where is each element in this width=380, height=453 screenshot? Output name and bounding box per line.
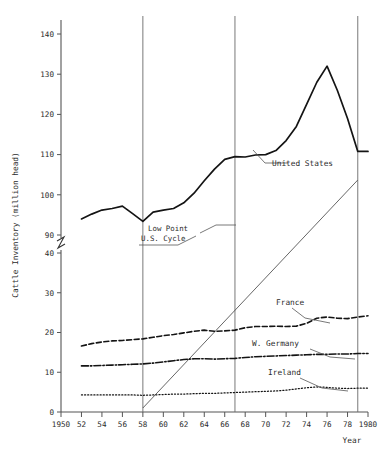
x-tick-label: 62 — [179, 420, 188, 429]
y-tick-label: 40 — [45, 249, 55, 258]
x-tick-label: 66 — [220, 420, 230, 429]
series-label-france: France — [276, 298, 304, 307]
x-axis-title: Year — [343, 436, 362, 445]
y-tick-label: 120 — [40, 110, 54, 119]
data-series-group — [81, 66, 368, 395]
x-tick-label: 1950 — [52, 420, 71, 429]
x-tick-label: 52 — [77, 420, 86, 429]
x-tick-label: 68 — [241, 420, 251, 429]
y-axis-ticks: 01020304090100110120130140 — [40, 30, 61, 417]
annotation-low-point-line1: Low Point — [148, 224, 188, 233]
x-tick-label: 72 — [282, 420, 291, 429]
y-tick-label: 0 — [49, 408, 54, 417]
series-label-ireland: Ireland — [268, 368, 301, 377]
x-tick-label: 78 — [343, 420, 353, 429]
x-tick-label: 60 — [159, 420, 169, 429]
x-axis-ticks: 195052545658606264666870727476781980 — [52, 412, 378, 429]
x-tick-label: 56 — [118, 420, 128, 429]
y-tick-label: 130 — [40, 70, 54, 79]
annotation-low-point-line2: U.S. Cycle — [141, 234, 186, 243]
y-tick-label: 10 — [45, 368, 55, 377]
cycle-trend-line — [143, 180, 358, 408]
y-axis-title: Cattle Inventory (million head) — [11, 152, 20, 298]
y-tick-label: 110 — [40, 150, 54, 159]
leader-low-point-up-right — [200, 225, 236, 233]
y-tick-label: 140 — [40, 30, 54, 39]
x-tick-label: 70 — [261, 420, 271, 429]
series-line-france — [81, 316, 368, 346]
chart-container: 01020304090100110120130140 1950525456586… — [0, 0, 380, 453]
y-axis-break-icon — [57, 237, 65, 248]
y-tick-label: 30 — [45, 289, 55, 298]
series-label-w-germany: W. Germany — [252, 339, 299, 348]
x-tick-label: 1980 — [359, 420, 378, 429]
leader-ireland — [300, 378, 348, 391]
x-tick-label: 64 — [200, 420, 210, 429]
cattle-inventory-line-chart: 01020304090100110120130140 1950525456586… — [0, 0, 380, 453]
x-tick-label: 76 — [322, 420, 332, 429]
y-tick-label: 100 — [40, 191, 54, 200]
y-tick-label: 90 — [45, 231, 55, 240]
x-tick-label: 58 — [138, 420, 148, 429]
x-tick-label: 74 — [302, 420, 312, 429]
x-tick-label: 54 — [97, 420, 107, 429]
series-label-united-states: United States — [272, 159, 333, 168]
series-line-united-states — [81, 66, 368, 221]
y-tick-label: 20 — [45, 328, 55, 337]
